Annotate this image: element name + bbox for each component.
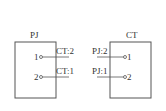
pin-number: 2 xyxy=(127,72,132,82)
pin-label: CT:1 xyxy=(56,66,74,76)
pin-2: PJ:1 2 xyxy=(92,66,132,82)
connector-diagram: PJ 1 CT:2 2 CT:1 CT PJ:2 1 PJ:1 2 xyxy=(0,0,166,111)
component-title: CT xyxy=(126,30,138,40)
component-box xyxy=(15,42,56,98)
pin-1: PJ:2 1 xyxy=(92,46,132,62)
pin-2: 2 CT:1 xyxy=(34,66,74,82)
pin-label: PJ:1 xyxy=(92,66,108,76)
pin-number: 2 xyxy=(34,72,39,82)
pin-terminal-icon xyxy=(40,76,43,79)
pin-number: 1 xyxy=(127,52,132,62)
pin-terminal-icon xyxy=(40,56,43,59)
component-title: PJ xyxy=(30,30,39,40)
pin-label: PJ:2 xyxy=(92,46,108,56)
pin-number: 1 xyxy=(34,52,39,62)
component-box xyxy=(110,42,151,98)
component-pj: PJ 1 CT:2 2 CT:1 xyxy=(15,30,74,98)
pin-label: CT:2 xyxy=(56,46,74,56)
pin-1: 1 CT:2 xyxy=(34,46,74,62)
component-ct: CT PJ:2 1 PJ:1 2 xyxy=(92,30,151,98)
